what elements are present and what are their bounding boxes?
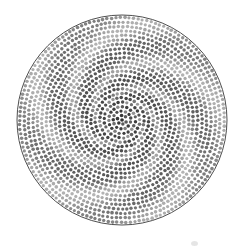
spiral-dot-pattern-canvas: [0, 0, 239, 247]
figure-root: [0, 0, 239, 247]
